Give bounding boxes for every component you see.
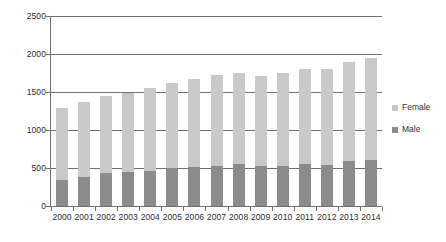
x-tick-mark: [272, 207, 273, 211]
bar-segment-female: [277, 73, 289, 166]
x-axis-line: [51, 206, 382, 207]
bar-group: [144, 16, 156, 206]
plot-area: [51, 16, 382, 206]
bar-group: [56, 16, 68, 206]
bar-segment-female: [78, 102, 90, 177]
y-tick-label: 2500: [14, 12, 46, 21]
bar-segment-female: [321, 69, 333, 164]
bar-segment-female: [166, 83, 178, 169]
bar-segment-male: [321, 165, 333, 206]
bar-group: [255, 16, 267, 206]
bar-segment-female: [233, 73, 245, 164]
bar-group: [365, 16, 377, 206]
legend-label: Male: [402, 125, 420, 134]
x-tick-mark: [117, 207, 118, 211]
y-tick-label: 1000: [14, 126, 46, 135]
bar-segment-male: [233, 164, 245, 206]
bar-group: [166, 16, 178, 206]
bar-segment-female: [299, 69, 311, 164]
legend-swatch-icon: [392, 127, 398, 133]
x-tick-mark: [338, 207, 339, 211]
bar-segment-male: [100, 173, 112, 206]
legend-label: Female: [402, 103, 430, 112]
y-tick-label: 0: [14, 202, 46, 211]
bar-group: [321, 16, 333, 206]
bar-segment-female: [56, 108, 68, 180]
x-tick-mark: [360, 207, 361, 211]
bar-segment-male: [365, 160, 377, 206]
bar-group: [277, 16, 289, 206]
bar-segment-female: [144, 88, 156, 171]
bar-segment-male: [255, 166, 267, 206]
x-tick-mark: [51, 207, 52, 211]
bar-group: [299, 16, 311, 206]
bar-group: [188, 16, 200, 206]
bar-segment-male: [78, 177, 90, 206]
bar-segment-female: [365, 58, 377, 160]
legend-swatch-icon: [392, 105, 398, 111]
bar-segment-male: [166, 168, 178, 206]
bar-group: [211, 16, 223, 206]
bar-segment-male: [343, 161, 355, 206]
y-tick-label: 2000: [14, 50, 46, 59]
bar-segment-male: [211, 166, 223, 206]
bar-group: [233, 16, 245, 206]
x-tick-mark: [73, 207, 74, 211]
bar-group: [100, 16, 112, 206]
x-tick-mark: [205, 207, 206, 211]
y-axis-labels: 05001000150020002500: [14, 0, 46, 242]
x-tick-mark: [161, 207, 162, 211]
x-tick-mark: [139, 207, 140, 211]
bar-segment-male: [122, 172, 134, 206]
legend-entry[interactable]: Male: [392, 123, 446, 136]
x-tick-mark: [183, 207, 184, 211]
x-tick-mark: [382, 207, 383, 211]
bar-segment-male: [277, 166, 289, 206]
x-tick-mark: [294, 207, 295, 211]
bar-segment-male: [299, 164, 311, 206]
bar-segment-female: [211, 75, 223, 166]
bar-segment-male: [144, 171, 156, 206]
y-tick-label: 1500: [14, 88, 46, 97]
x-tick-label: 2014: [356, 212, 386, 222]
bar-group: [343, 16, 355, 206]
bar-segment-male: [188, 167, 200, 206]
bar-group: [122, 16, 134, 206]
stacked-bar-chart: 05001000150020002500 2000200120022003200…: [0, 0, 446, 242]
legend: FemaleMale: [392, 101, 446, 145]
bar-group: [78, 16, 90, 206]
x-tick-mark: [228, 207, 229, 211]
bar-segment-male: [56, 180, 68, 206]
bar-segment-female: [343, 62, 355, 161]
bar-segment-female: [255, 76, 267, 167]
x-tick-mark: [95, 207, 96, 211]
legend-entry[interactable]: Female: [392, 101, 446, 114]
x-tick-mark: [316, 207, 317, 211]
y-tick-label: 500: [14, 164, 46, 173]
bar-segment-female: [188, 79, 200, 166]
bar-segment-female: [122, 93, 134, 172]
x-tick-mark: [250, 207, 251, 211]
bar-segment-female: [100, 96, 112, 174]
